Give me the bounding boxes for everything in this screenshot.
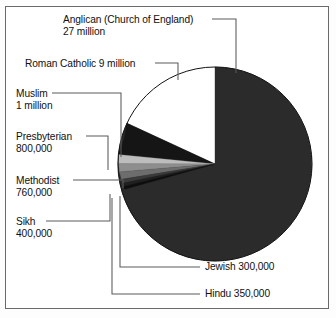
pie-slices [118, 67, 312, 261]
callout-label-roman-catholic: Roman Catholic 9 million [25, 58, 135, 70]
callout-label-methodist: Methodist 760,000 [16, 175, 59, 199]
leader-line-anglican [212, 19, 236, 73]
callout-label-jewish: Jewish 300,000 [205, 261, 274, 273]
callout-label-presbyterian: Presbyterian 800,000 [16, 131, 72, 155]
pie-chart-figure: Anglican (Church of England) 27 million … [0, 0, 336, 318]
callout-label-muslim: Muslim 1 million [16, 88, 52, 112]
leader-line-roman-catholic [155, 63, 178, 80]
leader-line-methodist [73, 180, 123, 188]
callout-label-hindu: Hindu 350,000 [205, 288, 270, 300]
callout-label-sikh: Sikh 400,000 [16, 216, 52, 240]
pie-chart-svg [0, 0, 336, 318]
leader-line-presbyterian [86, 136, 108, 170]
callout-label-anglican: Anglican (Church of England) 27 million [63, 14, 193, 38]
